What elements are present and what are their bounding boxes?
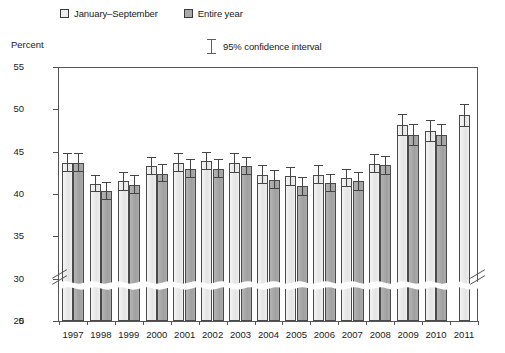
x-axis-tick-mark	[59, 321, 60, 325]
y-axis-tick-label: 40	[0, 189, 24, 199]
bar-2005-january-september	[285, 176, 296, 321]
bar-group	[171, 68, 199, 321]
error-bar	[286, 167, 295, 186]
legend-label-january-september: January–September	[74, 9, 158, 19]
bar-group	[394, 68, 422, 321]
x-axis-tick-mark	[310, 321, 311, 325]
bar-groups	[59, 68, 477, 321]
confidence-interval-legend: 95% confidence interval	[207, 39, 322, 54]
bar-group	[282, 68, 310, 321]
y-axis-title: Percent	[11, 40, 44, 50]
bar-2010-january-september	[425, 131, 436, 322]
y-axis-tick-mark	[53, 194, 58, 195]
bar-group	[87, 68, 115, 321]
bar-2001-entire-year	[185, 169, 196, 321]
error-bar	[298, 177, 307, 196]
x-axis-tick-mark	[143, 321, 144, 325]
bar-2002-january-september	[201, 161, 212, 321]
bar-2006-january-september	[313, 175, 324, 321]
x-axis-tick-mark	[199, 321, 200, 325]
bar-1999-entire-year	[129, 185, 140, 321]
error-bar	[102, 182, 111, 200]
bar-2002-entire-year	[213, 169, 224, 321]
bar-2004-entire-year	[269, 180, 280, 321]
x-axis-tick-mark	[450, 321, 451, 325]
x-axis-tick-mark	[338, 321, 339, 325]
bar-1997-entire-year	[73, 163, 84, 321]
error-bar	[230, 153, 239, 172]
error-bar	[426, 120, 435, 142]
bar-group	[366, 68, 394, 321]
x-axis-tick-mark	[366, 321, 367, 325]
bar-2000-january-september	[146, 166, 157, 321]
bar-2003-january-september	[229, 163, 240, 321]
y-axis-tick-label: 30	[0, 274, 24, 284]
bar-2006-entire-year	[325, 183, 336, 321]
y-axis-tick-mark	[53, 152, 58, 153]
bar-2009-entire-year	[408, 135, 419, 321]
error-bar	[270, 170, 279, 189]
bar-group	[255, 68, 283, 321]
legend-item-entire-year: Entire year	[184, 9, 243, 19]
error-bar	[186, 159, 195, 178]
error-bar	[342, 169, 351, 188]
x-axis-tick-mark	[115, 321, 116, 325]
plot-area	[59, 67, 478, 321]
error-bar-icon	[207, 39, 216, 54]
axis-break-slash	[470, 278, 485, 289]
error-bar	[74, 153, 83, 172]
x-axis-tick-mark	[87, 321, 88, 325]
bar-2010-entire-year	[436, 135, 447, 321]
bar-group	[338, 68, 366, 321]
bar-1998-january-september	[90, 184, 101, 321]
y-axis-tick-label: 0	[0, 316, 24, 326]
bar-2008-entire-year	[380, 165, 391, 321]
error-bar	[214, 159, 223, 178]
legend-label-entire-year: Entire year	[198, 9, 243, 19]
bar-2005-entire-year	[297, 186, 308, 321]
error-bar	[326, 174, 335, 193]
x-axis-tick-mark	[478, 321, 479, 325]
error-bar	[314, 165, 323, 184]
confidence-interval-label: 95% confidence interval	[223, 42, 322, 52]
error-bar	[130, 175, 139, 194]
bar-2000-entire-year	[157, 174, 168, 321]
error-bar	[63, 153, 72, 172]
y-axis-tick-mark	[53, 321, 58, 322]
x-axis-tick-mark	[227, 321, 228, 325]
y-axis-tick-mark	[53, 236, 58, 237]
bar-1999-january-september	[118, 181, 129, 321]
bar-1997-january-september	[62, 163, 73, 321]
axis-break-slash	[52, 278, 67, 289]
error-bar	[158, 164, 167, 182]
bar-group	[199, 68, 227, 321]
error-bar	[202, 152, 211, 171]
y-axis-tick-label: 45	[0, 147, 24, 157]
error-bar	[460, 104, 469, 127]
error-bar	[437, 124, 446, 146]
bar-group	[115, 68, 143, 321]
x-axis-tick-mark	[171, 321, 172, 325]
x-axis-tick-mark	[422, 321, 423, 325]
bar-group	[310, 68, 338, 321]
bar-group	[143, 68, 171, 321]
bar-2001-january-september	[173, 163, 184, 321]
legend-item-january-september: January–September	[60, 9, 158, 19]
y-axis-tick-mark	[53, 109, 58, 110]
error-bar	[370, 154, 379, 173]
error-bar	[381, 156, 390, 175]
bar-group	[422, 68, 450, 321]
y-axis-tick-label: 35	[0, 231, 24, 241]
bar-2009-january-september	[397, 125, 408, 321]
error-bar	[242, 157, 251, 176]
bar-1998-entire-year	[101, 191, 112, 321]
x-axis-tick-mark	[282, 321, 283, 325]
y-axis-tick-label: 55	[0, 62, 24, 72]
bar-2007-entire-year	[353, 181, 364, 321]
bar-2007-january-september	[341, 178, 352, 321]
error-bar	[174, 153, 183, 172]
bar-2003-entire-year	[241, 166, 252, 321]
legend: January–September Entire year	[60, 9, 243, 19]
error-bar	[91, 175, 100, 193]
error-bar	[398, 114, 407, 136]
